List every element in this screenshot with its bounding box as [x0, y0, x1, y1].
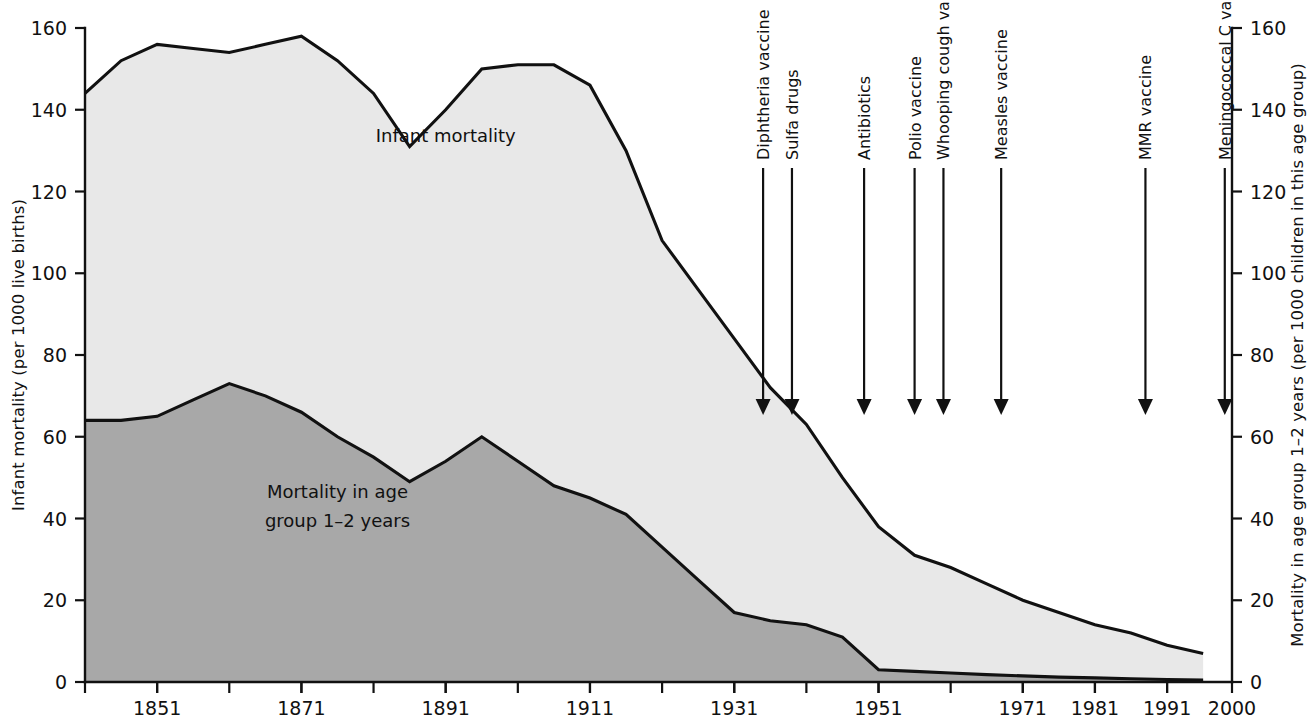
left-tick-label: 120: [31, 181, 67, 203]
bottom-axis-tick-labels: 1851187118911911193119511971198119912000: [133, 697, 1256, 719]
right-tick-label: 100: [1250, 262, 1286, 284]
right-tick-label: 0: [1250, 671, 1262, 693]
right-tick-label: 40: [1250, 508, 1274, 530]
bottom-axis-ticks: [85, 682, 1232, 693]
annotation-group: Diphtheria vaccineSulfa drugsAntibiotics…: [754, 0, 1235, 415]
left-tick-label: 40: [43, 508, 67, 530]
annotation-arrow-head: [936, 399, 951, 415]
bottom-tick-label: 1931: [710, 697, 758, 719]
right-tick-label: 20: [1250, 589, 1274, 611]
infant-mortality-area-chart: 020406080100120140160 020406080100120140…: [0, 0, 1313, 720]
bottom-tick-label: 1981: [1071, 697, 1119, 719]
annotation-label: Meningococcal C vaccine: [1216, 0, 1235, 160]
series-inline-label: group 1–2 years: [265, 510, 410, 531]
y-axis-title: Infant mortality (per 1000 live births): [9, 199, 28, 511]
left-axis-tick-labels: 020406080100120140160: [31, 17, 67, 693]
right-tick-label: 80: [1250, 344, 1274, 366]
bottom-tick-label: 1891: [422, 697, 470, 719]
bottom-tick-label: 1971: [999, 697, 1047, 719]
annotation-label: Polio vaccine: [906, 56, 925, 160]
annotation-label: Sulfa drugs: [783, 69, 802, 160]
bottom-tick-label: 1871: [277, 697, 325, 719]
left-tick-label: 0: [55, 671, 67, 693]
annotation-arrow-head: [994, 399, 1009, 415]
left-tick-label: 140: [31, 99, 67, 121]
y2-axis-title: Mortality in age group 1–2 years (per 10…: [1288, 63, 1307, 647]
series-inline-label: Infant mortality: [376, 125, 516, 146]
series-inline-label: Mortality in age: [267, 481, 408, 502]
annotation-arrow-head: [1138, 399, 1153, 415]
chart-canvas: 020406080100120140160 020406080100120140…: [0, 0, 1313, 720]
left-tick-label: 20: [43, 589, 67, 611]
bottom-tick-label: 1851: [133, 697, 181, 719]
annotation-label: MMR vaccine: [1136, 55, 1155, 160]
bottom-tick-label: 1991: [1143, 697, 1191, 719]
right-tick-label: 120: [1250, 181, 1286, 203]
right-tick-label: 60: [1250, 426, 1274, 448]
annotation-arrow-head: [857, 399, 872, 415]
left-tick-label: 160: [31, 17, 67, 39]
annotation-arrow-head: [1217, 399, 1232, 415]
annotation-label: Measles vaccine: [992, 29, 1011, 160]
left-axis-ticks: [75, 28, 85, 682]
bottom-tick-label: 1911: [566, 697, 614, 719]
right-axis-tick-labels: 020406080100120140160: [1250, 17, 1286, 693]
annotation-arrow-head: [907, 399, 922, 415]
left-tick-label: 60: [43, 426, 67, 448]
right-tick-label: 140: [1250, 99, 1286, 121]
annotation-label: Diphtheria vaccine: [754, 9, 773, 160]
left-tick-label: 100: [31, 262, 67, 284]
bottom-tick-label: 1951: [854, 697, 902, 719]
annotation-label: Whooping cough vaccine: [934, 0, 953, 160]
series-group: [85, 36, 1203, 682]
left-tick-label: 80: [43, 344, 67, 366]
right-tick-label: 160: [1250, 17, 1286, 39]
annotation-label: Antibiotics: [855, 76, 874, 160]
bottom-tick-label: 2000: [1208, 697, 1256, 719]
